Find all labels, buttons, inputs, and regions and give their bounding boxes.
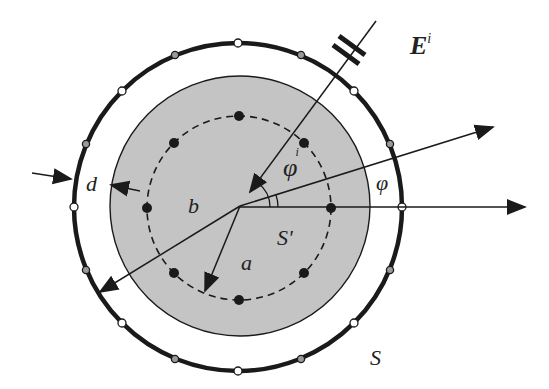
- scattering-diagram: Ei φi φ S' S a b d: [0, 0, 549, 389]
- observation-angle-label: φ: [376, 170, 388, 195]
- radius-a-label: a: [241, 250, 252, 275]
- gap-d-label: d: [86, 171, 98, 196]
- incident-field-label: Ei: [409, 31, 431, 60]
- surface-s-label: S: [370, 345, 381, 370]
- region-s-prime-label: S': [277, 225, 293, 250]
- radius-b-label: b: [188, 193, 199, 218]
- polarization-bars-icon: [333, 36, 365, 64]
- gap-d-arrow-outer: [32, 173, 71, 179]
